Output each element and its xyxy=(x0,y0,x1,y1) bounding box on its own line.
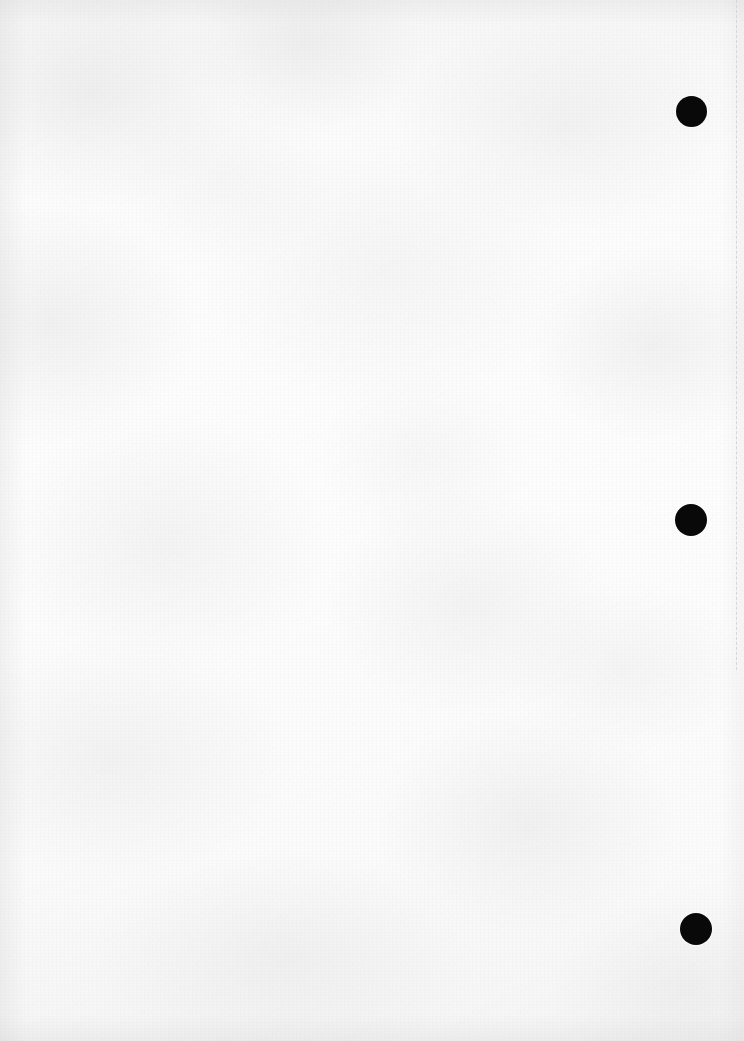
margin-dot-mark-2 xyxy=(675,504,707,536)
scanned-page xyxy=(0,0,744,1041)
right-margin-dashed-line xyxy=(736,0,737,670)
margin-dot-mark-3 xyxy=(680,913,712,945)
margin-dot-mark-1 xyxy=(676,96,707,127)
paper-grain-texture xyxy=(0,0,744,1041)
scan-vignette xyxy=(0,0,744,1041)
